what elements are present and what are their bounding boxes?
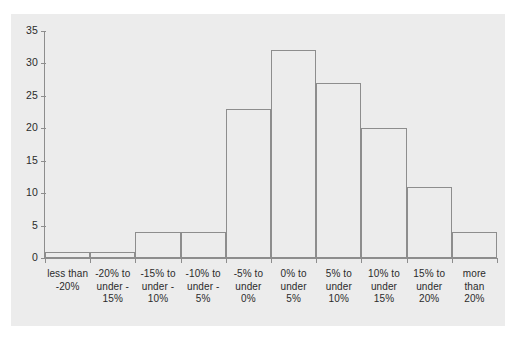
x-tick-label: -20% to under - 15% [90,268,135,306]
y-tick-label: 25 [26,89,38,101]
x-tick-label: more than 20% [452,268,497,306]
x-tick-mark [45,258,46,263]
x-tick-mark [361,258,362,263]
bar [181,232,226,258]
x-tick-label: -15% to under - 10% [135,268,180,306]
x-tick-label: 15% to under 20% [407,268,452,306]
x-tick-label: -10% to under - 5% [181,268,226,306]
x-tick-mark [135,258,136,263]
clipped-title-fragment [0,0,518,12]
x-tick-label: 5% to under 10% [316,268,361,306]
bar [271,50,316,258]
plot-area [45,31,497,258]
y-tick-label: 35 [26,24,38,36]
x-tick-mark [497,258,498,263]
x-tick-label: 10% to under 15% [361,268,406,306]
bar [226,109,271,258]
bar [45,252,90,258]
bar [452,232,497,258]
y-tick-label: 20 [26,121,38,133]
x-tick-label: 0% to under 5% [271,268,316,306]
x-tick-mark [271,258,272,263]
y-tick-label: 30 [26,56,38,68]
y-tick-label: 10 [26,186,38,198]
y-tick-label: 5 [32,219,38,231]
bar [135,232,180,258]
bar [90,252,135,258]
x-tick-mark [226,258,227,263]
bar [361,128,406,258]
chart-figure: 05101520253035 less than -20%-20% to und… [0,0,518,343]
y-tick-label: 15 [26,154,38,166]
x-tick-label: -5% to under 0% [226,268,271,306]
x-tick-mark [90,258,91,263]
x-tick-mark [407,258,408,263]
bar [407,187,452,258]
x-tick-mark [452,258,453,263]
y-tick-label: 0 [32,251,38,263]
x-tick-mark [316,258,317,263]
x-tick-mark [181,258,182,263]
bar [316,83,361,258]
x-tick-label: less than -20% [45,268,90,293]
